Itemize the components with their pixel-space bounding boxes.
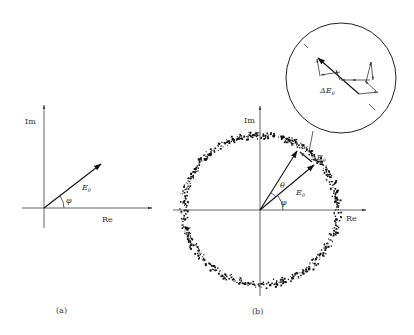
angle-label-theta-b: θ	[280, 181, 285, 190]
imag-axis-label-a: Im	[25, 117, 36, 126]
panel-b: Im Re φ θ E0 ΔEθ (b)	[173, 106, 366, 316]
delta-label-b: ΔEθ	[310, 153, 326, 163]
rotated-phasor-vector-b	[260, 151, 297, 210]
phasor-vector-a	[44, 164, 101, 208]
inset-magnifier: ΔEθ	[286, 23, 396, 133]
angle-label-phi-b: φ	[281, 198, 287, 207]
phasor-vector-b	[260, 165, 314, 210]
phasor-diagram-figure: Im Re E0 φ (a) Im Re φ θ E0 ΔEθ (b)	[0, 0, 414, 335]
imag-axis-label-b: Im	[244, 116, 255, 125]
real-axis-label-b: Re	[346, 214, 357, 223]
real-axis-label-a: Re	[102, 215, 113, 224]
vector-label-b: E0	[295, 188, 306, 198]
angle-label-phi-a: φ	[66, 196, 72, 205]
vector-label-a: E0	[81, 183, 92, 193]
caption-a: (a)	[56, 306, 67, 315]
caption-b: (b)	[252, 307, 263, 316]
panel-a: Im Re E0 φ (a)	[22, 105, 152, 315]
phi-arc-a	[60, 196, 64, 208]
inset-pointer-line	[309, 131, 313, 152]
theta-arc-b	[271, 193, 276, 197]
